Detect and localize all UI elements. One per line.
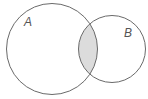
venn-diagram: A B (0, 0, 148, 99)
set-b-label: B (124, 26, 132, 40)
set-a-label: A (23, 15, 32, 29)
